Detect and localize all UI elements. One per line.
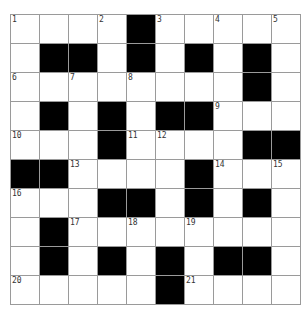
letter-cell[interactable]: [213, 72, 242, 101]
letter-cell[interactable]: 2: [97, 14, 126, 43]
clue-number: 20: [12, 276, 22, 285]
black-square: [242, 43, 271, 72]
letter-cell[interactable]: [39, 188, 68, 217]
letter-cell[interactable]: [39, 275, 68, 304]
letter-cell[interactable]: [213, 130, 242, 159]
clue-number: 2: [99, 15, 104, 24]
letter-cell[interactable]: [271, 246, 300, 275]
black-square: [39, 43, 68, 72]
letter-cell[interactable]: [155, 188, 184, 217]
clue-number: 15: [273, 160, 283, 169]
letter-cell[interactable]: [213, 188, 242, 217]
letter-cell[interactable]: [97, 159, 126, 188]
letter-cell[interactable]: 11: [126, 130, 155, 159]
letter-cell[interactable]: [68, 188, 97, 217]
letter-cell[interactable]: [155, 72, 184, 101]
letter-cell[interactable]: [39, 14, 68, 43]
letter-cell[interactable]: [10, 246, 39, 275]
letter-cell[interactable]: 15: [271, 159, 300, 188]
letter-cell[interactable]: 7: [68, 72, 97, 101]
letter-cell[interactable]: 17: [68, 217, 97, 246]
letter-cell[interactable]: 5: [271, 14, 300, 43]
letter-cell[interactable]: [184, 14, 213, 43]
letter-cell[interactable]: 6: [10, 72, 39, 101]
letter-cell[interactable]: [213, 275, 242, 304]
letter-cell[interactable]: [10, 217, 39, 246]
letter-cell[interactable]: [271, 188, 300, 217]
black-square: [39, 159, 68, 188]
letter-cell[interactable]: [126, 275, 155, 304]
letter-cell[interactable]: [271, 72, 300, 101]
letter-cell[interactable]: [213, 217, 242, 246]
letter-cell[interactable]: [97, 217, 126, 246]
clue-number: 17: [70, 218, 80, 227]
letter-cell[interactable]: 4: [213, 14, 242, 43]
letter-cell[interactable]: [155, 217, 184, 246]
black-square: [184, 101, 213, 130]
letter-cell[interactable]: [126, 159, 155, 188]
black-square: [242, 246, 271, 275]
letter-cell[interactable]: [155, 43, 184, 72]
letter-cell[interactable]: 14: [213, 159, 242, 188]
letter-cell[interactable]: [10, 101, 39, 130]
letter-cell[interactable]: [126, 101, 155, 130]
clue-number: 12: [157, 131, 167, 140]
letter-cell[interactable]: 13: [68, 159, 97, 188]
black-square: [213, 246, 242, 275]
letter-cell[interactable]: [155, 159, 184, 188]
letter-cell[interactable]: 18: [126, 217, 155, 246]
black-square: [97, 188, 126, 217]
black-square: [97, 101, 126, 130]
letter-cell[interactable]: [97, 275, 126, 304]
black-square: [126, 188, 155, 217]
letter-cell[interactable]: [242, 275, 271, 304]
letter-cell[interactable]: [126, 246, 155, 275]
letter-cell[interactable]: 16: [10, 188, 39, 217]
letter-cell[interactable]: [68, 101, 97, 130]
clue-number: 18: [128, 218, 138, 227]
letter-cell[interactable]: [68, 14, 97, 43]
black-square: [39, 217, 68, 246]
clue-number: 19: [186, 218, 196, 227]
letter-cell[interactable]: 12: [155, 130, 184, 159]
letter-cell[interactable]: [271, 43, 300, 72]
letter-cell[interactable]: [39, 72, 68, 101]
letter-cell[interactable]: 20: [10, 275, 39, 304]
letter-cell[interactable]: [271, 101, 300, 130]
letter-cell[interactable]: [97, 43, 126, 72]
letter-cell[interactable]: 1: [10, 14, 39, 43]
letter-cell[interactable]: 9: [213, 101, 242, 130]
clue-number: 10: [12, 131, 22, 140]
black-square: [155, 101, 184, 130]
letter-cell[interactable]: [68, 275, 97, 304]
letter-cell[interactable]: [271, 217, 300, 246]
letter-cell[interactable]: [242, 217, 271, 246]
letter-cell[interactable]: [10, 43, 39, 72]
black-square: [97, 130, 126, 159]
letter-cell[interactable]: 3: [155, 14, 184, 43]
letter-cell[interactable]: 8: [126, 72, 155, 101]
clue-number: 7: [70, 73, 75, 82]
black-square: [97, 246, 126, 275]
letter-cell[interactable]: [184, 72, 213, 101]
black-square: [242, 72, 271, 101]
letter-cell[interactable]: [97, 72, 126, 101]
black-square: [242, 188, 271, 217]
letter-cell[interactable]: [184, 130, 213, 159]
clue-number: 14: [215, 160, 225, 169]
letter-cell[interactable]: [213, 43, 242, 72]
clue-number: 5: [273, 15, 278, 24]
letter-cell[interactable]: [271, 275, 300, 304]
letter-cell[interactable]: 10: [10, 130, 39, 159]
letter-cell[interactable]: [39, 130, 68, 159]
letter-cell[interactable]: [68, 130, 97, 159]
black-square: [184, 188, 213, 217]
letter-cell[interactable]: 21: [184, 275, 213, 304]
letter-cell[interactable]: [242, 14, 271, 43]
letter-cell[interactable]: 19: [184, 217, 213, 246]
letter-cell[interactable]: [184, 246, 213, 275]
letter-cell[interactable]: [242, 159, 271, 188]
letter-cell[interactable]: [68, 246, 97, 275]
letter-cell[interactable]: [242, 101, 271, 130]
clue-number: 6: [12, 73, 17, 82]
